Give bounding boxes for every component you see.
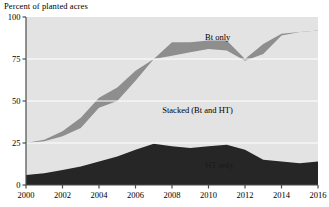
- series-label-bt-only: Bt only: [205, 32, 231, 42]
- x-tick-label-2010: 2010: [200, 190, 217, 200]
- chart-container: Percent of planted acres 0255075100 2000…: [0, 0, 329, 207]
- series-label-ht-only: HT only: [205, 160, 234, 170]
- x-tick-label-2016: 2016: [310, 190, 327, 200]
- y-tick-label-75: 75: [12, 54, 21, 64]
- y-tick-label-100: 100: [8, 12, 21, 22]
- x-axis-ticks: 200020022004200620082010201220142016: [18, 185, 327, 200]
- series-label-stacked-bt-and-ht: Stacked (Bt and HT): [162, 105, 233, 115]
- y-tick-label-50: 50: [12, 96, 21, 106]
- x-tick-label-2008: 2008: [164, 190, 181, 200]
- plot-area-wrapper: 0255075100 20002002200420062008201020122…: [0, 0, 329, 207]
- x-tick-label-2006: 2006: [127, 190, 144, 200]
- x-tick-label-2012: 2012: [237, 190, 254, 200]
- y-tick-label-0: 0: [16, 180, 20, 190]
- x-tick-label-2002: 2002: [54, 190, 71, 200]
- y-tick-label-25: 25: [12, 138, 21, 148]
- x-tick-label-2004: 2004: [91, 190, 109, 200]
- stacked-area-chart: 0255075100 20002002200420062008201020122…: [0, 0, 329, 207]
- x-tick-label-2014: 2014: [273, 190, 291, 200]
- y-axis-ticks: 0255075100: [8, 12, 26, 190]
- x-tick-label-2000: 2000: [18, 190, 35, 200]
